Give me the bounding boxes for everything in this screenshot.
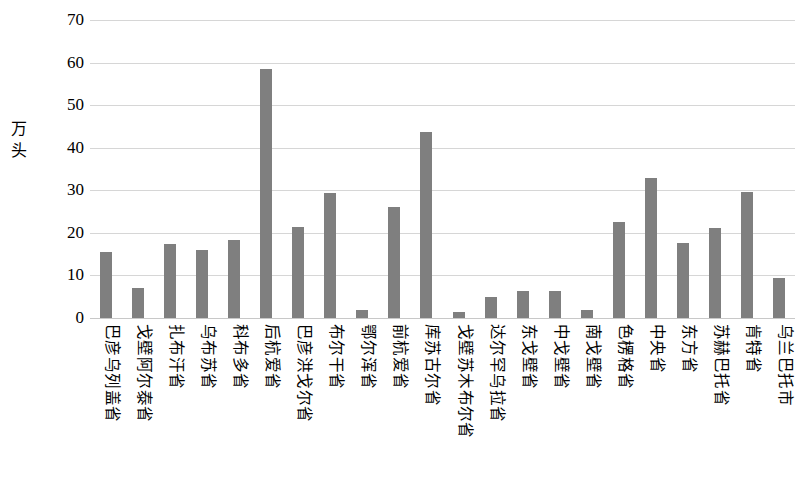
x-axis-tick-label: 中央省 [649,324,665,474]
x-axis-labels: 巴彦乌列盖省戈壁阿尔泰省扎布汗省乌布苏省科布多省后杭爱省巴彦洪戈尔省布尔干省鄂尔… [90,324,795,474]
y-axis-tick-label: 50 [42,96,84,113]
bar-chart: 万头 010203040506070 巴彦乌列盖省戈壁阿尔泰省扎布汗省乌布苏省科… [0,0,807,481]
y-axis-title-text: 万头 [6,118,32,162]
x-axis-tick-label: 后杭爱省 [265,324,281,474]
bar [388,207,400,318]
x-axis-tick-label: 色楞格省 [617,324,633,474]
bar [132,288,144,318]
gridline [90,318,795,319]
plot-area [90,20,795,318]
y-axis-tick-label: 0 [42,309,84,326]
x-axis-tick-label: 戈壁阿尔泰省 [136,324,152,474]
y-axis-tick-label: 10 [42,266,84,283]
bar [292,227,304,318]
x-axis-tick-label: 前杭爱省 [393,324,409,474]
x-axis-tick-label: 鄂尔浑省 [361,324,377,474]
bar [677,243,689,318]
bar [196,250,208,318]
y-axis-title: 万头 [6,118,32,162]
bar [100,252,112,318]
x-axis-tick-label: 巴彦洪戈尔省 [297,324,313,474]
bar [164,244,176,318]
y-axis-tick-label: 20 [42,224,84,241]
x-axis-tick-label: 东戈壁省 [521,324,537,474]
y-axis-tick-label: 30 [42,181,84,198]
bar [773,278,785,318]
bar [356,310,368,319]
x-axis-tick-label: 南戈壁省 [585,324,601,474]
bar [485,297,497,318]
x-axis-tick-label: 达尔罕乌拉省 [489,324,505,474]
x-axis-tick-label: 乌布苏省 [200,324,216,474]
y-axis-tick-label: 40 [42,139,84,156]
y-axis-tick-label: 70 [42,11,84,28]
x-axis-tick-label: 肯特省 [745,324,761,474]
x-axis-tick-label: 库苏古尔省 [425,324,441,474]
bar [613,222,625,318]
bar [645,178,657,318]
bar [453,312,465,318]
bar [228,240,240,318]
bar [549,291,561,318]
bar [324,193,336,318]
x-axis-tick-label: 巴彦乌列盖省 [104,324,120,474]
bar [581,310,593,319]
x-axis-tick-label: 布尔干省 [329,324,345,474]
x-axis-tick-label: 东方省 [681,324,697,474]
bar [741,192,753,318]
bar [709,228,721,318]
x-axis-tick-label: 苏赫巴托省 [713,324,729,474]
y-axis-ticks: 010203040506070 [34,20,84,318]
x-axis-tick-label: 扎布汗省 [168,324,184,474]
x-axis-tick-label: 戈壁苏木布尔省 [457,324,473,474]
y-axis-tick-label: 60 [42,54,84,71]
x-axis-tick-label: 乌兰巴托市 [777,324,793,474]
x-axis-tick-label: 中戈壁省 [553,324,569,474]
bar [420,132,432,318]
bar [260,69,272,318]
x-axis-tick-label: 科布多省 [232,324,248,474]
bars-layer [90,20,795,318]
bar [517,291,529,318]
